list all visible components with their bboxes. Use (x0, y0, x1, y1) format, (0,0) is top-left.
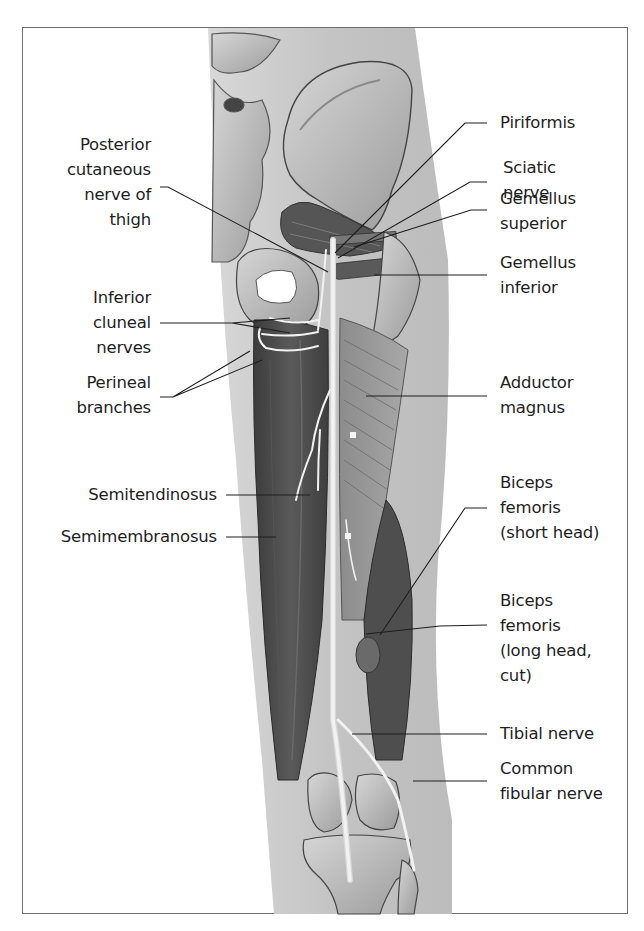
label-line: fibular nerve (500, 781, 603, 806)
label-piriformis: Piriformis (500, 110, 575, 135)
label-line: cutaneous (67, 157, 151, 182)
label-line: Biceps (500, 588, 592, 613)
label-line: Posterior (67, 132, 151, 157)
label-line: Gemellus (500, 250, 576, 275)
label-line: Perineal (76, 370, 151, 395)
label-line: nerves (93, 335, 151, 360)
label-inferior-cluneal-nerves: Inferior cluneal nerves (93, 285, 151, 360)
label-posterior-cutaneous-nerve-of-thigh: Posterior cutaneous nerve of thigh (67, 132, 151, 232)
label-gemellus-superior: Gemellus superior (500, 186, 576, 236)
label-line: Inferior (93, 285, 151, 310)
label-biceps-femoris-long-head-cut: Biceps femoris (long head, cut) (500, 588, 592, 688)
label-gemellus-inferior: Gemellus inferior (500, 250, 576, 300)
label-line: branches (76, 395, 151, 420)
label-tibial-nerve: Tibial nerve (500, 721, 594, 746)
label-line: Biceps (500, 470, 599, 495)
label-line: inferior (500, 275, 576, 300)
label-biceps-femoris-short-head: Biceps femoris (short head) (500, 470, 599, 545)
label-semitendinosus: Semitendinosus (88, 482, 217, 507)
label-line: cut) (500, 663, 592, 688)
label-line: Gemellus (500, 186, 576, 211)
label-line: superior (500, 211, 576, 236)
label-line: (long head, (500, 638, 592, 663)
label-line: Adductor (500, 370, 573, 395)
label-line: Sciatic (503, 155, 556, 180)
label-line: magnus (500, 395, 573, 420)
label-semimembranosus: Semimembranosus (61, 524, 217, 549)
label-line: Common (500, 756, 603, 781)
label-line: femoris (500, 613, 592, 638)
label-line: (short head) (500, 520, 599, 545)
label-line: Semimembranosus (61, 524, 217, 549)
label-line: nerve of (67, 182, 151, 207)
label-line: thigh (67, 207, 151, 232)
label-adductor-magnus: Adductor magnus (500, 370, 573, 420)
label-line: femoris (500, 495, 599, 520)
label-common-fibular-nerve: Common fibular nerve (500, 756, 603, 806)
label-line: Semitendinosus (88, 482, 217, 507)
label-line: Piriformis (500, 110, 575, 135)
label-perineal-branches: Perineal branches (76, 370, 151, 420)
label-line: cluneal (93, 310, 151, 335)
label-line: Tibial nerve (500, 721, 594, 746)
